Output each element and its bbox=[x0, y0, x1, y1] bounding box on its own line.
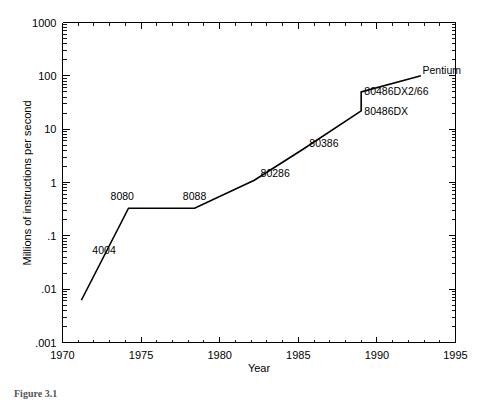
data-point-label: Pentium bbox=[422, 64, 461, 76]
mips-vs-year-line-chart: 1970197519801985199019951000100101.1.01.… bbox=[0, 0, 494, 400]
chart-render-layer: 1970197519801985199019951000100101.1.01.… bbox=[32, 17, 468, 361]
x-tick-label: 1985 bbox=[286, 349, 310, 361]
data-point-label: 4004 bbox=[92, 244, 116, 256]
y-tick-label: .001 bbox=[35, 337, 56, 349]
x-tick-label: 1980 bbox=[207, 349, 231, 361]
y-tick-label: 100 bbox=[38, 70, 56, 82]
axis-spines-top-right bbox=[63, 23, 456, 343]
axis-spines-left-bottom bbox=[63, 23, 456, 343]
y-tick-label: 1000 bbox=[32, 17, 56, 29]
data-point-label: 80286 bbox=[261, 167, 290, 179]
data-point-label: 8088 bbox=[183, 190, 207, 202]
x-tick-label: 1970 bbox=[50, 349, 74, 361]
y-axis-title: Millions of instructions per second bbox=[21, 100, 33, 265]
data-point-label: 8080 bbox=[111, 190, 135, 202]
y-tick-label: 10 bbox=[44, 123, 56, 135]
data-point-label: 80486DX bbox=[364, 105, 408, 117]
x-tick-label: 1990 bbox=[365, 349, 389, 361]
figure-root: 1970197519801985199019951000100101.1.01.… bbox=[0, 0, 494, 400]
y-tick-label: .01 bbox=[41, 283, 56, 295]
x-tick-label: 1995 bbox=[443, 349, 467, 361]
data-point-label: 80386 bbox=[309, 137, 338, 149]
y-tick-label: 1 bbox=[50, 177, 56, 189]
figure-caption-text: Figure 3.1 bbox=[14, 388, 214, 399]
data-point-label: 80486DX2/66 bbox=[364, 85, 428, 97]
plot-axes bbox=[63, 23, 456, 343]
x-axis-title: Year bbox=[248, 362, 271, 374]
figure-caption: Figure 3.1 bbox=[14, 388, 214, 400]
y-tick-label: .1 bbox=[47, 230, 56, 242]
x-tick-label: 1975 bbox=[129, 349, 153, 361]
